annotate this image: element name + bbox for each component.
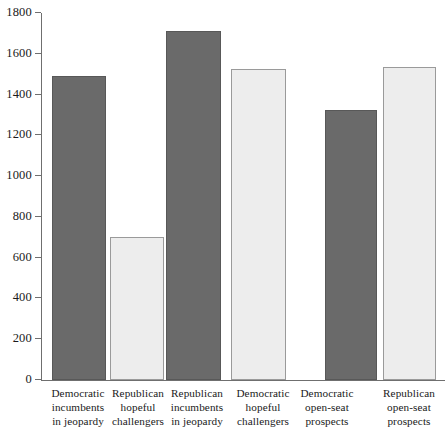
category-label: Democratic hopeful challengers — [228, 386, 298, 429]
bar — [110, 237, 164, 380]
category-label: Republican incumbents in jeopardy — [162, 386, 232, 429]
bar — [325, 110, 377, 380]
y-tick-label: 600 — [13, 249, 32, 266]
y-tick-label: 0 — [26, 371, 32, 388]
bar — [166, 31, 221, 380]
bar — [383, 67, 436, 380]
x-axis-line — [41, 380, 445, 381]
y-tick-label: 200 — [13, 330, 32, 347]
y-tick-label: 1400 — [6, 86, 32, 103]
y-tick-label: 1000 — [6, 167, 32, 184]
y-tick-label: 1200 — [6, 126, 32, 143]
bar-chart: 180016001400120010008006004002000 Democr… — [0, 0, 445, 430]
bar — [52, 76, 106, 380]
category-label: Republican open-seat prospects — [374, 386, 444, 429]
plot-area — [41, 13, 445, 380]
y-tick-label: 800 — [13, 208, 32, 225]
y-tick-label: 400 — [13, 289, 32, 306]
bar — [231, 69, 286, 380]
category-label: Democratic incumbents in jeopardy — [44, 386, 112, 429]
category-label: Democratic open-seat prospects — [292, 386, 362, 429]
y-tick-label: 1600 — [6, 45, 32, 62]
y-tick-label: 1800 — [6, 4, 32, 21]
